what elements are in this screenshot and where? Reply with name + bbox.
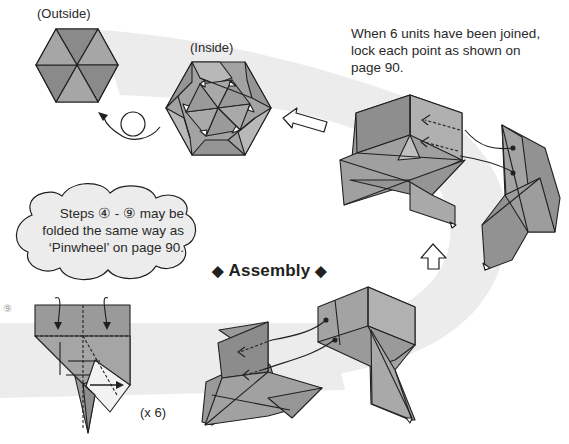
assembly-title: ◆ Assembly ◆	[212, 261, 328, 281]
instruction-line-2: lock each point as shown on	[351, 42, 566, 59]
diamond-icon: ◆	[315, 262, 327, 279]
multiplier-label: (x 6)	[140, 405, 166, 420]
assembly-title-text: Assembly	[229, 261, 311, 280]
instruction-text: When 6 units have been joined, lock each…	[351, 25, 566, 76]
step-number: ⑨	[3, 303, 12, 314]
hollow-arrow-up-icon	[421, 244, 446, 269]
turn-over-arrow-icon	[98, 112, 160, 139]
inside-label: (Inside)	[190, 40, 233, 55]
note-line-1: Steps ④ - ⑨ may be	[34, 205, 184, 222]
instruction-line-3: page 90.	[351, 59, 566, 76]
outside-label: (Outside)	[37, 6, 90, 21]
diamond-icon: ◆	[212, 262, 224, 279]
note-cloud: Steps ④ - ⑨ may be folded the same way a…	[34, 205, 184, 256]
note-line-2: folded the same way as	[34, 222, 184, 239]
note-line-3: ‘Pinwheel’ on page 90.	[34, 239, 184, 256]
instruction-line-1: When 6 units have been joined,	[351, 25, 566, 42]
